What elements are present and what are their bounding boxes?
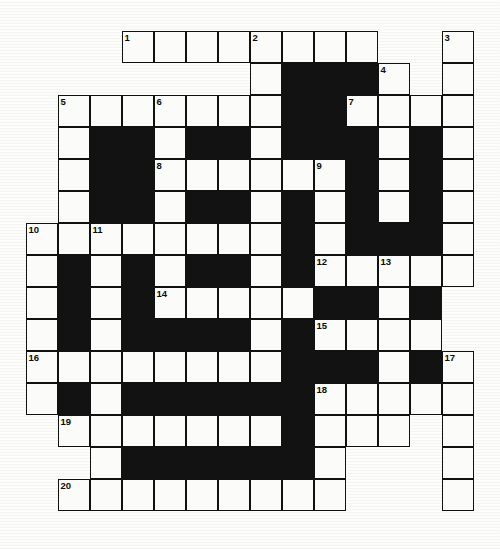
letter-cell[interactable] (122, 479, 154, 511)
letter-cell[interactable] (442, 95, 474, 127)
letter-cell[interactable] (90, 415, 122, 447)
letter-cell-numbered-20[interactable]: 20 (58, 479, 90, 511)
letter-cell[interactable] (122, 351, 154, 383)
letter-cell[interactable] (378, 383, 410, 415)
letter-cell-numbered-4[interactable]: 4 (378, 63, 410, 95)
letter-cell[interactable] (218, 95, 250, 127)
letter-cell-numbered-8[interactable]: 8 (154, 159, 186, 191)
letter-cell[interactable] (410, 383, 442, 415)
letter-cell[interactable] (282, 31, 314, 63)
letter-cell[interactable] (186, 479, 218, 511)
letter-cell[interactable] (26, 287, 58, 319)
letter-cell[interactable] (442, 447, 474, 479)
letter-cell[interactable] (378, 95, 410, 127)
letter-cell[interactable] (250, 479, 282, 511)
letter-cell[interactable] (250, 351, 282, 383)
letter-cell[interactable] (250, 415, 282, 447)
letter-cell[interactable] (442, 255, 474, 287)
letter-cell[interactable] (378, 127, 410, 159)
letter-cell[interactable] (378, 415, 410, 447)
letter-cell-numbered-2[interactable]: 2 (250, 31, 282, 63)
letter-cell[interactable] (58, 159, 90, 191)
letter-cell[interactable] (90, 255, 122, 287)
letter-cell[interactable] (90, 383, 122, 415)
letter-cell[interactable] (154, 191, 186, 223)
letter-cell[interactable] (186, 31, 218, 63)
letter-cell[interactable] (442, 415, 474, 447)
letter-cell[interactable] (218, 223, 250, 255)
letter-cell[interactable] (90, 447, 122, 479)
letter-cell-numbered-5[interactable]: 5 (58, 95, 90, 127)
letter-cell[interactable] (186, 351, 218, 383)
letter-cell[interactable] (314, 415, 346, 447)
letter-cell[interactable] (90, 319, 122, 351)
letter-cell[interactable] (186, 159, 218, 191)
letter-cell[interactable] (154, 223, 186, 255)
letter-cell[interactable] (282, 159, 314, 191)
letter-cell[interactable] (250, 287, 282, 319)
letter-cell[interactable] (346, 383, 378, 415)
letter-cell[interactable] (442, 63, 474, 95)
letter-cell[interactable] (90, 95, 122, 127)
letter-cell[interactable] (154, 415, 186, 447)
letter-cell[interactable] (282, 479, 314, 511)
letter-cell-numbered-7[interactable]: 7 (346, 95, 378, 127)
letter-cell[interactable] (218, 479, 250, 511)
letter-cell[interactable] (250, 159, 282, 191)
letter-cell[interactable] (218, 351, 250, 383)
letter-cell[interactable] (218, 415, 250, 447)
letter-cell[interactable] (122, 415, 154, 447)
letter-cell-numbered-11[interactable]: 11 (90, 223, 122, 255)
letter-cell[interactable] (314, 31, 346, 63)
letter-cell[interactable] (250, 63, 282, 95)
letter-cell[interactable] (378, 319, 410, 351)
letter-cell[interactable] (442, 159, 474, 191)
letter-cell[interactable] (314, 223, 346, 255)
letter-cell[interactable] (378, 287, 410, 319)
letter-cell[interactable] (250, 255, 282, 287)
letter-cell-numbered-19[interactable]: 19 (58, 415, 90, 447)
letter-cell[interactable] (26, 319, 58, 351)
letter-cell-numbered-14[interactable]: 14 (154, 287, 186, 319)
crossword-grid[interactable]: 1234567891011121314151617181920 (0, 0, 500, 549)
letter-cell[interactable] (58, 351, 90, 383)
letter-cell[interactable] (378, 191, 410, 223)
letter-cell-numbered-17[interactable]: 17 (442, 351, 474, 383)
letter-cell[interactable] (90, 351, 122, 383)
letter-cell[interactable] (154, 351, 186, 383)
letter-cell[interactable] (442, 383, 474, 415)
letter-cell-numbered-3[interactable]: 3 (442, 31, 474, 63)
letter-cell[interactable] (314, 191, 346, 223)
letter-cell[interactable] (186, 95, 218, 127)
letter-cell[interactable] (122, 95, 154, 127)
letter-cell[interactable] (346, 415, 378, 447)
letter-cell[interactable] (90, 287, 122, 319)
letter-cell[interactable] (186, 415, 218, 447)
letter-cell-numbered-10[interactable]: 10 (26, 223, 58, 255)
letter-cell[interactable] (154, 255, 186, 287)
letter-cell-numbered-18[interactable]: 18 (314, 383, 346, 415)
letter-cell-numbered-15[interactable]: 15 (314, 319, 346, 351)
letter-cell[interactable] (442, 127, 474, 159)
letter-cell-numbered-9[interactable]: 9 (314, 159, 346, 191)
letter-cell[interactable] (378, 351, 410, 383)
letter-cell-numbered-6[interactable]: 6 (154, 95, 186, 127)
letter-cell[interactable] (314, 479, 346, 511)
letter-cell[interactable] (58, 127, 90, 159)
letter-cell[interactable] (250, 95, 282, 127)
letter-cell[interactable] (90, 479, 122, 511)
letter-cell[interactable] (250, 127, 282, 159)
letter-cell[interactable] (346, 319, 378, 351)
letter-cell[interactable] (410, 95, 442, 127)
letter-cell[interactable] (186, 287, 218, 319)
letter-cell[interactable] (154, 479, 186, 511)
letter-cell[interactable] (26, 383, 58, 415)
letter-cell[interactable] (218, 287, 250, 319)
letter-cell-numbered-1[interactable]: 1 (122, 31, 154, 63)
letter-cell[interactable] (250, 319, 282, 351)
letter-cell[interactable] (282, 287, 314, 319)
letter-cell[interactable] (26, 255, 58, 287)
letter-cell[interactable] (442, 191, 474, 223)
letter-cell[interactable] (218, 31, 250, 63)
letter-cell[interactable] (442, 223, 474, 255)
